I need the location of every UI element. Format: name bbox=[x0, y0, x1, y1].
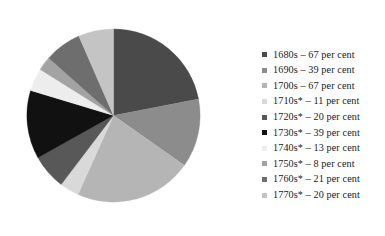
legend-item-label: 1690s – 39 per cent bbox=[273, 65, 355, 75]
chart-legend: 1680s – 67 per cent1690s – 39 per cent17… bbox=[262, 47, 385, 203]
legend-swatch-icon bbox=[262, 68, 267, 73]
legend-item-1700s: 1700s – 67 per cent bbox=[262, 78, 385, 94]
pie-slice-group bbox=[27, 29, 200, 202]
legend-swatch-icon bbox=[262, 146, 267, 151]
legend-item-1720s: 1720s* – 20 per cent bbox=[262, 109, 385, 125]
legend-item-1740s: 1740s* – 13 per cent bbox=[262, 141, 385, 157]
legend-item-label: 1750s* – 8 per cent bbox=[273, 159, 355, 169]
legend-swatch-icon bbox=[262, 177, 267, 182]
legend-swatch-icon bbox=[262, 193, 267, 198]
legend-item-1690s: 1690s – 39 per cent bbox=[262, 63, 385, 79]
legend-swatch-icon bbox=[262, 52, 267, 57]
legend-item-1680s: 1680s – 67 per cent bbox=[262, 47, 385, 63]
legend-item-1770s: 1770s* – 20 per cent bbox=[262, 187, 385, 203]
legend-item-label: 1710s* – 11 per cent bbox=[273, 96, 360, 106]
legend-swatch-icon bbox=[262, 83, 267, 88]
legend-item-1750s: 1750s* – 8 per cent bbox=[262, 156, 385, 172]
legend-item-label: 1760s* – 21 per cent bbox=[273, 174, 360, 184]
legend-item-label: 1680s – 67 per cent bbox=[273, 50, 355, 60]
legend-swatch-icon bbox=[262, 115, 267, 120]
legend-item-label: 1740s* – 13 per cent bbox=[273, 143, 360, 153]
legend-swatch-icon bbox=[262, 161, 267, 166]
legend-item-label: 1770s* – 20 per cent bbox=[273, 190, 360, 200]
legend-item-label: 1730s* – 39 per cent bbox=[273, 128, 360, 138]
legend-item-1730s: 1730s* – 39 per cent bbox=[262, 125, 385, 141]
pie-chart-plot-area bbox=[26, 28, 201, 203]
pie-chart-svg bbox=[26, 28, 201, 203]
legend-swatch-icon bbox=[262, 130, 267, 135]
legend-item-1710s: 1710s* – 11 per cent bbox=[262, 94, 385, 110]
pie-chart-figure: 1680s – 67 per cent1690s – 39 per cent17… bbox=[0, 0, 385, 236]
legend-item-1760s: 1760s* – 21 per cent bbox=[262, 172, 385, 188]
legend-swatch-icon bbox=[262, 99, 267, 104]
legend-item-label: 1700s – 67 per cent bbox=[273, 81, 355, 91]
legend-item-label: 1720s* – 20 per cent bbox=[273, 112, 360, 122]
